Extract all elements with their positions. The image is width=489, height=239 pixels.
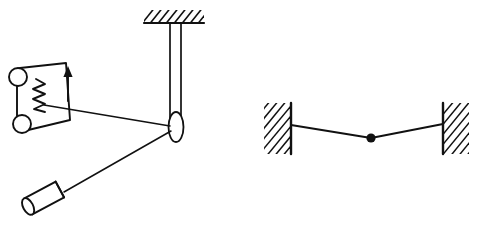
right-wall-hatch-icon xyxy=(440,94,478,164)
pulley-icon xyxy=(169,112,184,142)
figure-root xyxy=(0,0,489,239)
physics-diagram-canvas xyxy=(0,0,489,239)
ceiling-support xyxy=(140,6,212,26)
cylindrical-block xyxy=(19,182,64,217)
right-wall xyxy=(440,94,478,164)
right-panel xyxy=(256,94,478,164)
lower-roller-icon xyxy=(13,115,31,133)
string-pulley-to-block xyxy=(64,131,171,192)
left-panel xyxy=(9,6,212,217)
point-mass-icon xyxy=(366,133,375,142)
left-wall xyxy=(256,94,296,164)
upper-roller-icon xyxy=(9,68,27,86)
